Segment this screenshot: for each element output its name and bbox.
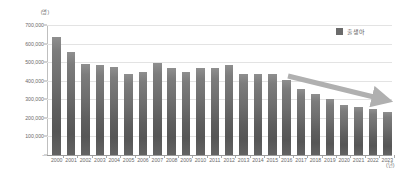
plot-area: -100,000200,000300,000400,000500,000600,… bbox=[47, 25, 392, 155]
x-axis-tick-label: 2011 bbox=[209, 157, 220, 163]
legend-swatch-births bbox=[336, 28, 343, 35]
x-axis-tick-label: 2022 bbox=[367, 157, 379, 163]
x-axis-tick-label: 2019 bbox=[324, 157, 336, 163]
x-axis-tick-label: 2018 bbox=[310, 157, 322, 163]
bar-fill bbox=[52, 37, 60, 155]
bar bbox=[268, 25, 276, 155]
x-axis-tick-label: 2008 bbox=[166, 157, 178, 163]
bar bbox=[139, 25, 147, 155]
x-axis-tick-label: 2001 bbox=[65, 157, 77, 163]
bar bbox=[153, 25, 161, 155]
x-axis-tick-label: 2017 bbox=[295, 157, 307, 163]
bar bbox=[282, 25, 290, 155]
x-axis-tick-label: 2006 bbox=[137, 157, 149, 163]
x-axis-tick-label: 2014 bbox=[252, 157, 264, 163]
bar-series-births bbox=[47, 25, 392, 155]
bar-fill bbox=[297, 89, 305, 155]
bar-fill bbox=[110, 67, 118, 155]
x-axis-tick-label: 2002 bbox=[80, 157, 92, 163]
bar bbox=[383, 25, 391, 155]
x-axis-tick-label: 2009 bbox=[180, 157, 192, 163]
x-axis-tick-mark bbox=[394, 155, 395, 158]
bar bbox=[311, 25, 319, 155]
x-axis-tick-label: 2003 bbox=[94, 157, 106, 163]
x-axis-tick-label: 2000 bbox=[51, 157, 63, 163]
x-axis-tick-label: 2013 bbox=[238, 157, 250, 163]
bar-fill bbox=[369, 109, 377, 155]
x-axis-tick-label: 2012 bbox=[223, 157, 235, 163]
bar-fill bbox=[96, 65, 104, 155]
bar bbox=[297, 25, 305, 155]
bar-fill bbox=[311, 94, 319, 155]
bar-fill bbox=[254, 74, 262, 155]
bar bbox=[254, 25, 262, 155]
bar-fill bbox=[225, 65, 233, 155]
x-axis-tick-labels: 2000200120022003200420052006200720082009… bbox=[47, 157, 392, 169]
bar-fill bbox=[354, 107, 362, 155]
x-axis-unit-label: (년) bbox=[386, 161, 394, 168]
bar bbox=[326, 25, 334, 155]
bar bbox=[225, 25, 233, 155]
bar bbox=[196, 25, 204, 155]
x-axis-tick-label: 2020 bbox=[338, 157, 350, 163]
bar bbox=[354, 25, 362, 155]
bar-fill bbox=[139, 72, 147, 155]
bar-fill bbox=[282, 80, 290, 155]
x-axis-tick-label: 2005 bbox=[123, 157, 135, 163]
birth-statistics-bar-chart: (명) -100,000200,000300,000400,000500,000… bbox=[0, 0, 412, 178]
bar bbox=[96, 25, 104, 155]
x-axis-tick-label: 2004 bbox=[108, 157, 120, 163]
chart-legend: 출생아 bbox=[336, 27, 365, 36]
x-axis-tick-label: 2021 bbox=[353, 157, 365, 163]
bar-fill bbox=[81, 64, 89, 155]
bar-fill bbox=[340, 105, 348, 156]
bar bbox=[211, 25, 219, 155]
bar-fill bbox=[124, 74, 132, 155]
bar-fill bbox=[211, 68, 219, 155]
bar bbox=[124, 25, 132, 155]
bar bbox=[110, 25, 118, 155]
bar bbox=[52, 25, 60, 155]
bar-fill bbox=[383, 112, 391, 155]
y-axis-unit-label: (명) bbox=[30, 8, 60, 15]
bar bbox=[167, 25, 175, 155]
bar-fill bbox=[167, 68, 175, 155]
bar bbox=[67, 25, 75, 155]
bar bbox=[182, 25, 190, 155]
x-axis-tick-label: 2010 bbox=[195, 157, 207, 163]
x-axis-tick-label: 2007 bbox=[152, 157, 164, 163]
bar-fill bbox=[67, 52, 75, 155]
bar-fill bbox=[182, 72, 190, 155]
bar-fill bbox=[196, 68, 204, 155]
bar-fill bbox=[239, 74, 247, 155]
bar bbox=[239, 25, 247, 155]
x-axis-line bbox=[47, 155, 392, 156]
bar-fill bbox=[153, 63, 161, 155]
bar bbox=[81, 25, 89, 155]
bar-fill bbox=[268, 74, 276, 155]
bar bbox=[340, 25, 348, 155]
x-axis-tick-label: 2016 bbox=[281, 157, 293, 163]
legend-label-births: 출생아 bbox=[347, 27, 365, 36]
bar bbox=[369, 25, 377, 155]
x-axis-tick-label: 2015 bbox=[267, 157, 279, 163]
bar-fill bbox=[326, 99, 334, 155]
